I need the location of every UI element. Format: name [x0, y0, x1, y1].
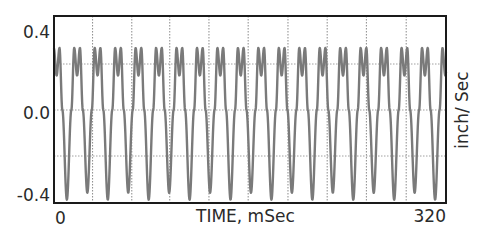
x-tick-label-end: 320 — [414, 206, 446, 226]
y-tick-label-bottom: -0.4 — [17, 185, 50, 205]
y-tick-label-top: 0.4 — [23, 22, 50, 42]
x-tick-label-start: 0 — [55, 208, 66, 228]
velocity-series-line — [54, 48, 446, 200]
y-axis-title: inch/ Sec — [452, 71, 472, 148]
x-axis-title: TIME, mSec — [195, 206, 295, 226]
velocity-time-chart: 0.4 0.0 -0.4 0 320 TIME, mSec inch/ Sec — [0, 0, 486, 234]
y-tick-label-zero: 0.0 — [23, 103, 50, 123]
